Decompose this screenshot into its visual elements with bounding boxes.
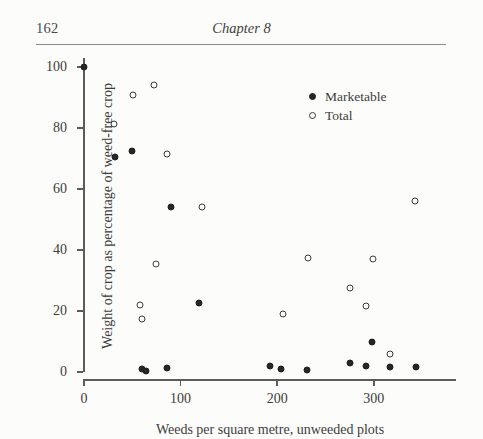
legend-item-total: Total: [309, 106, 386, 125]
data-point-total: [369, 256, 376, 263]
data-point-marketable: [304, 366, 311, 373]
y-tick: 40: [77, 249, 83, 251]
y-tick-label: 80: [53, 121, 67, 135]
legend-label-total: Total: [325, 108, 353, 124]
data-point-total: [305, 254, 312, 261]
y-tick: 0: [77, 371, 83, 373]
data-point-total: [130, 91, 137, 98]
data-point-marketable: [81, 64, 88, 71]
plot-area: 020406080100 0100200300 Marketable Total…: [84, 58, 456, 380]
x-tick-label: 300: [363, 392, 384, 406]
chapter-title: Chapter 8: [0, 20, 483, 37]
y-tick-label: 60: [53, 182, 67, 196]
x-axis-title: Weeds per square metre, unweeded plots: [84, 422, 456, 438]
data-point-marketable: [413, 363, 420, 370]
legend: Marketable Total: [309, 87, 386, 125]
data-point-marketable: [167, 204, 174, 211]
x-tick-label: 100: [170, 392, 191, 406]
x-tick: [276, 380, 278, 386]
x-tick: [180, 380, 182, 386]
x-axis-line: [83, 379, 456, 381]
data-point-marketable: [368, 338, 375, 345]
x-tick: [83, 380, 85, 386]
y-tick: 20: [77, 310, 83, 312]
book-page: 162 Chapter 8 020406080100 0100200300 Ma…: [0, 0, 483, 439]
header-rule: [36, 44, 446, 45]
legend-item-marketable: Marketable: [309, 87, 386, 106]
y-tick-label: 100: [46, 60, 67, 74]
data-point-total: [412, 198, 419, 205]
filled-circle-icon: [309, 93, 316, 100]
y-tick-label: 40: [53, 243, 67, 257]
y-tick: 80: [77, 127, 83, 129]
data-point-marketable: [266, 362, 273, 369]
y-axis-title: Weight of crop as percentage of weed-fre…: [100, 66, 116, 366]
scatter-plot-figure: 020406080100 0100200300 Marketable Total…: [0, 48, 483, 439]
y-tick-label: 20: [53, 304, 67, 318]
open-circle-icon: [309, 112, 316, 119]
data-point-total: [138, 315, 145, 322]
y-tick: 60: [77, 188, 83, 190]
legend-label-marketable: Marketable: [325, 89, 386, 105]
data-point-marketable: [164, 365, 171, 372]
data-point-total: [164, 151, 171, 158]
data-point-marketable: [142, 368, 149, 375]
data-point-marketable: [387, 363, 394, 370]
data-point-marketable: [195, 300, 202, 307]
data-point-total: [150, 82, 157, 89]
data-point-total: [137, 301, 144, 308]
y-axis-line: [83, 58, 85, 372]
running-head: 162 Chapter 8: [0, 20, 483, 44]
data-point-marketable: [278, 365, 285, 372]
y-tick-label: 0: [60, 365, 67, 379]
data-point-total: [363, 303, 370, 310]
data-point-total: [280, 311, 287, 318]
data-point-marketable: [363, 362, 370, 369]
x-tick: [373, 380, 375, 386]
data-point-total: [198, 204, 205, 211]
data-point-marketable: [346, 359, 353, 366]
x-tick-label: 0: [81, 392, 88, 406]
data-point-total: [387, 350, 394, 357]
data-point-marketable: [129, 147, 136, 154]
data-point-total: [152, 260, 159, 267]
data-point-total: [346, 285, 353, 292]
x-tick-label: 200: [267, 392, 288, 406]
